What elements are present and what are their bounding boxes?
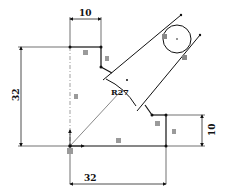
tangent-line-upper (103, 15, 181, 80)
constraint-vertical-right (105, 56, 109, 61)
constraint-vertical-step (172, 129, 176, 134)
constraint-origin (67, 148, 73, 154)
tangent-line-lower (137, 35, 200, 111)
sketch-points[interactable] (68, 14, 201, 148)
cad-sketch-canvas[interactable]: 10 32 32 10 R27 (0, 0, 225, 196)
radius-leader (70, 92, 120, 146)
dim-left-height-label[interactable]: 32 (11, 88, 21, 101)
arc-radius-label[interactable]: R27 (111, 87, 129, 97)
lower-slant-edge (145, 105, 152, 115)
constraint-horizontal-step (155, 121, 160, 126)
dim-bottom-width-label[interactable]: 32 (84, 173, 97, 183)
dim-right-height-label[interactable]: 10 (207, 123, 217, 136)
sketch-profile[interactable] (70, 15, 200, 146)
constraint-tangent-upper (162, 34, 167, 39)
dim-top-width-label[interactable]: 10 (79, 8, 92, 18)
constraint-tangent-lower (182, 55, 187, 60)
constraint-vertical-center (74, 94, 78, 99)
constraint-horizontal-top (83, 50, 88, 55)
upper-slant-edge (101, 67, 112, 73)
constraint-horizontal-bottom (116, 138, 121, 143)
extension-lines (18, 17, 205, 184)
